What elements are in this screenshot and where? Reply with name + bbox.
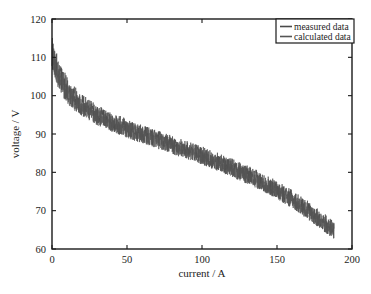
x-axis-title: current / A (178, 267, 225, 279)
voltage-current-plot: 050100150200 60708090100110120 current /… (0, 0, 371, 294)
x-tick-label: 200 (344, 254, 360, 265)
x-tick-label: 150 (269, 254, 285, 265)
x-tick-label: 100 (194, 254, 210, 265)
y-tick-label: 110 (31, 52, 46, 63)
legend-label-measured: measured data (294, 22, 349, 32)
y-tick-label: 120 (30, 14, 46, 25)
legend[interactable]: measured data calculated data (276, 19, 354, 43)
y-tick-label: 70 (36, 205, 47, 216)
chart-figure: 050100150200 60708090100110120 current /… (0, 0, 371, 294)
legend-label-calculated: calculated data (294, 32, 351, 42)
y-tick-label: 80 (36, 167, 47, 178)
y-tick-label: 60 (36, 244, 47, 255)
x-tick-label: 0 (49, 254, 54, 265)
x-tick-labels: 050100150200 (49, 254, 360, 265)
x-tick-label: 50 (122, 254, 133, 265)
y-tick-labels: 60708090100110120 (30, 14, 46, 255)
y-axis-title: voltage / V (9, 110, 21, 159)
y-tick-label: 100 (30, 90, 46, 101)
y-tick-label: 90 (36, 129, 47, 140)
